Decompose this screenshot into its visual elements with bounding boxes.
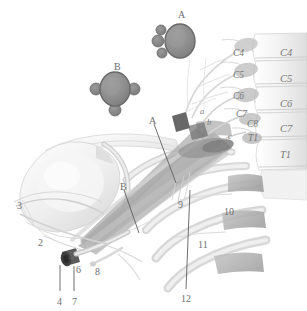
nerve-root-label-c5: C5 (233, 70, 244, 80)
vertebral-body-label-c6: C6 (280, 99, 292, 109)
vertebral-body-label-c4: C4 (280, 48, 292, 58)
anatomy-figure: AB C4C5C6C7T1 C4C5C6C7C8T1 abc AB1234567… (0, 0, 307, 311)
inset-b (90, 72, 140, 116)
inset-label-b: B (114, 62, 121, 72)
inset-a-highlight (167, 27, 186, 47)
anatomy-illustration-canvas (0, 0, 307, 311)
nerve-root-label-c6: C6 (233, 91, 244, 101)
inset-label-a: A (178, 10, 185, 20)
vertebral-body-label-t1: T1 (280, 150, 291, 160)
callout-label-12: 12 (181, 294, 191, 304)
structure-letter-label-c: c (228, 131, 232, 141)
callout-label-6: 6 (76, 265, 81, 275)
structure-letter-label-b: b (207, 117, 211, 127)
callout-label-8: 8 (95, 267, 100, 277)
vertebral-column (220, 33, 307, 200)
callout-label-9: 9 (178, 200, 183, 210)
callout-label-11: 11 (198, 240, 208, 250)
inset-a-satellite-3 (157, 48, 167, 58)
callout-label-1: 1 (176, 120, 181, 130)
callout-label-2: 2 (38, 238, 43, 248)
callout-label-a: A (149, 116, 156, 126)
nerve-root-label-c8: C8 (247, 119, 258, 129)
callout-label-b: B (120, 182, 127, 192)
nerve-root-label-c7: C7 (236, 109, 247, 119)
callout-label-5: 5 (69, 251, 74, 261)
callout-label-7: 7 (72, 297, 77, 307)
inset-b-highlight (102, 75, 121, 95)
vertebral-body-label-c7: C7 (280, 124, 292, 134)
callout-label-3: 3 (17, 201, 22, 211)
callout-label-10: 10 (224, 207, 234, 217)
structure-letter-label-a: a (200, 106, 204, 116)
callout-label-4: 4 (57, 297, 62, 307)
nerve-root-label-c4: C4 (233, 48, 244, 58)
cross-section-insets (90, 24, 195, 116)
nerve-root-label-t1: T1 (248, 133, 258, 143)
inset-a-satellite-2 (152, 35, 164, 47)
vertebral-body-label-c5: C5 (280, 74, 292, 84)
inset-a-satellite-1 (156, 25, 166, 35)
inset-a (152, 24, 195, 58)
